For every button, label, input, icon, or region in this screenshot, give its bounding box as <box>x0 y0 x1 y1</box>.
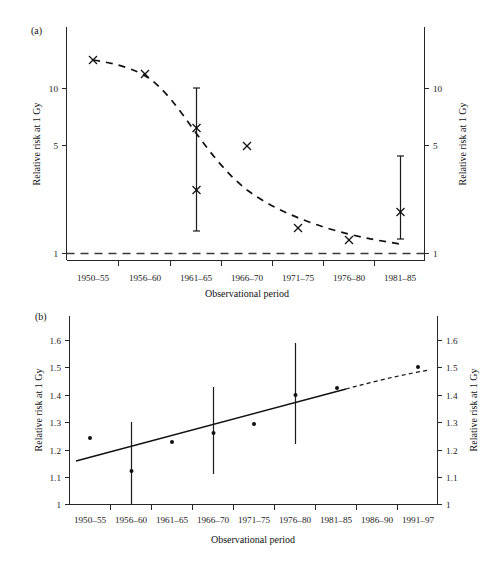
panel-b-right-ytick-label-6: 1.6 <box>446 336 458 346</box>
panel-a-yaxis-title-right: Relative risk at 1 Gy <box>457 103 468 186</box>
panel-b-fit-line-dashed <box>346 370 429 389</box>
panel-a-right-ytick-label-10: 10 <box>433 84 443 94</box>
panel-b-ytick-label-3: 1.3 <box>50 418 62 428</box>
panel-a-right-ytick-label-5: 5 <box>433 141 438 151</box>
figure-container: (a) 1 5 10 1 5 10 <box>0 0 499 564</box>
panel-a-ytick-label-5: 5 <box>53 141 58 151</box>
panel-b-xtick-label-6: 1981–85 <box>320 515 353 525</box>
panel-b-ytick-label-4: 1.4 <box>50 391 62 401</box>
panel-a-xtick-label-3: 1966–70 <box>231 273 264 283</box>
panel-b-point-6 <box>335 386 339 390</box>
panel-b-ytick-label-2: 1.2 <box>50 446 62 456</box>
panel-b-label: (b) <box>35 311 47 323</box>
panel-b-ytick-label-0: 1 <box>56 500 61 510</box>
panel-b-right-ytick-label-3: 1.3 <box>446 418 458 428</box>
panel-a-svg: (a) 1 5 10 1 5 10 <box>0 0 499 300</box>
panel-a-yaxis-title-left: Relative risk at 1 Gy <box>31 103 42 186</box>
panel-b-left-yticks: 1 1.1 1.2 1.3 1.4 1.5 1.6 <box>50 336 70 510</box>
panel-b-xtick-label-2: 1961–65 <box>156 515 189 525</box>
panel-a-xtick-labels: 1950–55 1956–60 1961–65 1966–70 1971–75 … <box>77 273 417 283</box>
panel-b-point-0 <box>88 436 92 440</box>
panel-b-point-8 <box>416 365 420 369</box>
panel-a-data-points <box>89 56 405 244</box>
panel-b-data-points <box>88 365 420 473</box>
panel-b-yaxis-title-right: Relative risk at 1 Gy <box>468 369 479 452</box>
panel-b-fit-line-solid <box>76 389 346 461</box>
panel-a-xtick-label-1: 1956–60 <box>129 273 162 283</box>
panel-b-ytick-label-5: 1.5 <box>50 363 62 373</box>
panel-b-right-ytick-label-4: 1.4 <box>446 391 458 401</box>
panel-b-svg: (b) 1 1.1 1.2 1.3 1.4 1.5 1.6 <box>0 296 499 564</box>
panel-a-xtick-label-6: 1981–85 <box>384 273 417 283</box>
panel-b-xtick-label-0: 1950–55 <box>74 515 107 525</box>
panel-a-xtick-label-5: 1976–80 <box>333 273 366 283</box>
panel-a-point-5 <box>345 236 353 244</box>
panel-b-ytick-label-1: 1.1 <box>50 473 62 483</box>
panel-b-ytick-label-6: 1.6 <box>50 336 62 346</box>
panel-a-fit-curve <box>93 60 400 244</box>
panel-b-point-4 <box>252 422 256 426</box>
panel-a-xtick-label-4: 1971–75 <box>282 273 315 283</box>
panel-a-point-4 <box>294 224 302 232</box>
panel-a-point-3 <box>243 142 251 150</box>
panel-b-xtick-label-8: 1991–97 <box>402 515 435 525</box>
panel-b-point-1 <box>130 469 134 473</box>
panel-b-xtick-labels: 1950–55 1956–60 1961–65 1966–70 1971–75 … <box>74 515 435 525</box>
panel-b-right-ytick-label-2: 1.2 <box>446 446 458 456</box>
panel-a-right-yticks: 1 5 10 <box>424 84 443 259</box>
panel-b-point-3 <box>212 431 216 435</box>
panel-a-ytick-label-10: 10 <box>49 84 59 94</box>
panel-a-xtick-label-0: 1950–55 <box>77 273 110 283</box>
panel-b-right-yticks: 1 1.1 1.2 1.3 1.4 1.5 1.6 <box>437 336 458 510</box>
panel-a-xtick-label-2: 1961–65 <box>180 273 213 283</box>
panel-b-right-ytick-label-5: 1.5 <box>446 363 458 373</box>
panel-a-errorbar-1981-85 <box>397 156 404 239</box>
panel-a-label: (a) <box>31 25 42 37</box>
chart-panel-b: (b) 1 1.1 1.2 1.3 1.4 1.5 1.6 <box>0 296 499 564</box>
panel-b-point-2 <box>170 440 174 444</box>
panel-a-left-yticks: 1 5 10 <box>49 84 67 259</box>
panel-a-right-ytick-label-1: 1 <box>433 249 438 259</box>
panel-b-yaxis-title-left: Relative risk at 1 Gy <box>33 369 44 452</box>
chart-panel-a: (a) 1 5 10 1 5 10 <box>0 0 499 300</box>
panel-b-right-ytick-label-1: 1.1 <box>446 473 458 483</box>
panel-b-xtick-label-3: 1966–70 <box>197 515 230 525</box>
panel-b-xaxis-title: Observational period <box>211 534 295 545</box>
panel-a-errorbar-1961-65 <box>193 88 200 231</box>
panel-b-point-5 <box>294 393 298 397</box>
panel-b-xtick-label-4: 1971–75 <box>238 515 271 525</box>
panel-a-ytick-label-1: 1 <box>53 249 58 259</box>
panel-a-point-1 <box>141 70 149 78</box>
panel-b-xtick-label-7: 1986–90 <box>361 515 394 525</box>
panel-b-right-ytick-label-0: 1 <box>446 500 451 510</box>
panel-b-xtick-label-5: 1976–80 <box>279 515 312 525</box>
panel-b-xtick-label-1: 1956–60 <box>115 515 148 525</box>
